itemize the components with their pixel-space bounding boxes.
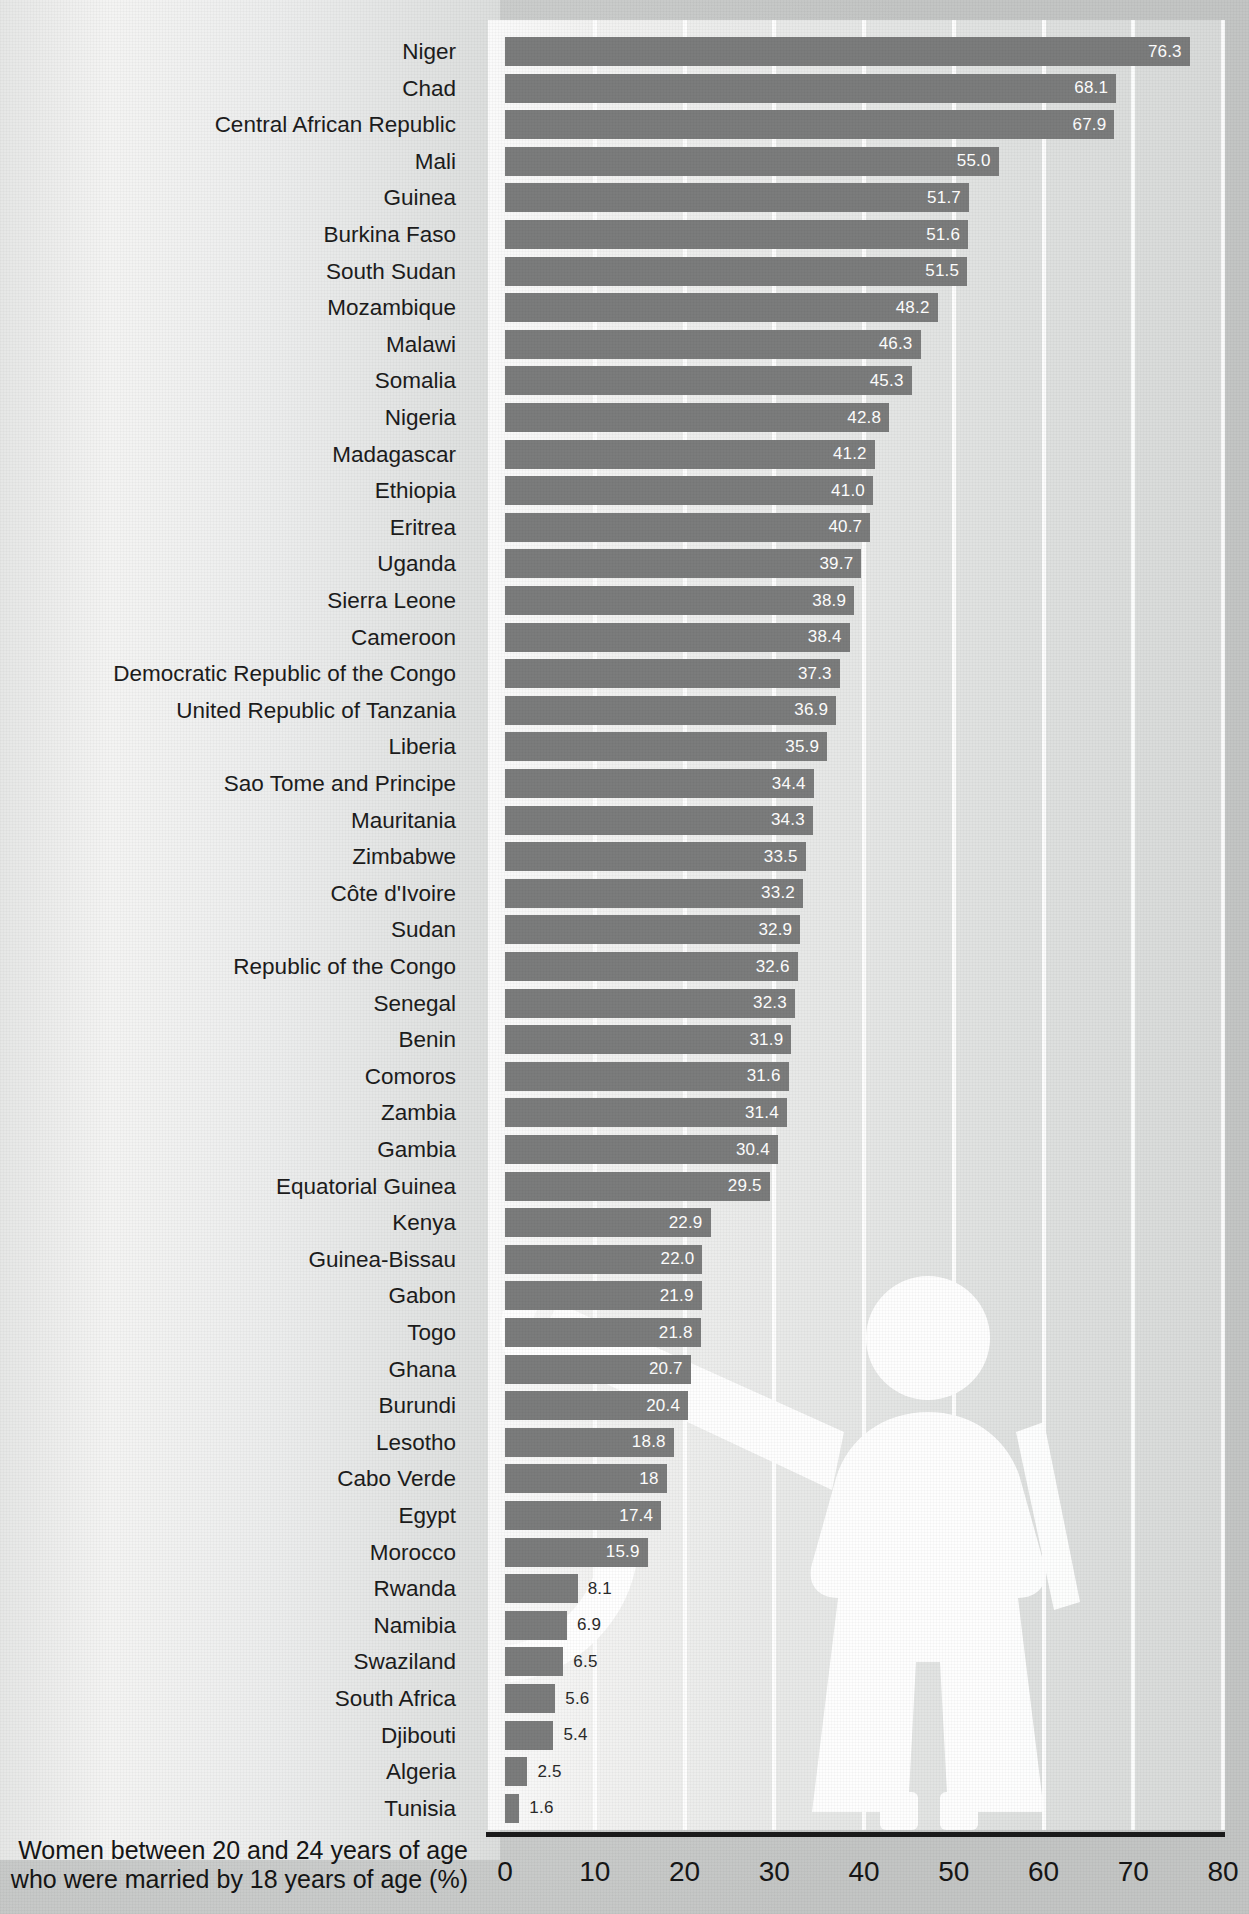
bar-row[interactable]: 20.7 — [488, 1355, 1223, 1384]
bar-row[interactable]: 30.4 — [488, 1135, 1223, 1164]
bar-row[interactable]: 17.4 — [488, 1501, 1223, 1530]
bar-value-label: 30.4 — [736, 1140, 770, 1160]
bar-row[interactable]: 21.9 — [488, 1281, 1223, 1310]
bar-row[interactable]: 5.6 — [488, 1684, 1223, 1713]
bar-row[interactable]: 38.9 — [488, 586, 1223, 615]
bar[interactable] — [505, 659, 840, 688]
bar[interactable] — [505, 366, 912, 395]
bar-row[interactable]: 55.0 — [488, 147, 1223, 176]
bar-row[interactable]: 67.9 — [488, 110, 1223, 139]
bar-row[interactable]: 34.4 — [488, 769, 1223, 798]
bar[interactable] — [505, 74, 1116, 103]
bar-value-label: 31.9 — [749, 1030, 783, 1050]
bar-row[interactable]: 33.5 — [488, 842, 1223, 871]
bar[interactable] — [505, 476, 873, 505]
bar-row[interactable]: 36.9 — [488, 696, 1223, 725]
bar[interactable] — [505, 586, 854, 615]
bar-row[interactable]: 37.3 — [488, 659, 1223, 688]
bar-row[interactable]: 32.3 — [488, 989, 1223, 1018]
bar[interactable] — [505, 549, 861, 578]
bar-value-label: 68.1 — [1074, 78, 1108, 98]
bar[interactable] — [505, 915, 800, 944]
bar-row[interactable]: 20.4 — [488, 1391, 1223, 1420]
bar[interactable] — [505, 1757, 527, 1786]
bar[interactable] — [505, 330, 921, 359]
bar-row[interactable]: 15.9 — [488, 1538, 1223, 1567]
bar-row[interactable]: 8.1 — [488, 1574, 1223, 1603]
bar-row[interactable]: 46.3 — [488, 330, 1223, 359]
bar-row[interactable]: 18 — [488, 1464, 1223, 1493]
bar-row[interactable]: 21.8 — [488, 1318, 1223, 1347]
bar-row[interactable]: 68.1 — [488, 74, 1223, 103]
x-tick-label: 20 — [669, 1856, 700, 1888]
bar[interactable] — [505, 952, 798, 981]
bar-row[interactable]: 41.0 — [488, 476, 1223, 505]
bar-row[interactable]: 5.4 — [488, 1721, 1223, 1750]
bar[interactable] — [505, 1025, 791, 1054]
bar[interactable] — [505, 1794, 519, 1823]
bar-row[interactable]: 32.6 — [488, 952, 1223, 981]
bar-row[interactable]: 40.7 — [488, 513, 1223, 542]
bar[interactable] — [505, 147, 999, 176]
bar[interactable] — [505, 183, 969, 212]
bar[interactable] — [505, 257, 967, 286]
bar[interactable] — [505, 440, 875, 469]
bar[interactable] — [505, 293, 938, 322]
bar-row[interactable]: 32.9 — [488, 915, 1223, 944]
bar-row[interactable]: 29.5 — [488, 1172, 1223, 1201]
bar-value-label: 31.6 — [747, 1066, 781, 1086]
bar[interactable] — [505, 1721, 553, 1750]
bar[interactable] — [505, 1574, 578, 1603]
bar-row[interactable]: 2.5 — [488, 1757, 1223, 1786]
bar[interactable] — [505, 806, 813, 835]
bar-row[interactable]: 41.2 — [488, 440, 1223, 469]
bar[interactable] — [505, 842, 806, 871]
category-label: Lesotho — [376, 1428, 456, 1457]
bar-row[interactable]: 6.9 — [488, 1611, 1223, 1640]
bar-row[interactable]: 22.0 — [488, 1245, 1223, 1274]
bar[interactable] — [505, 37, 1190, 66]
bar-row[interactable]: 38.4 — [488, 623, 1223, 652]
bar-row[interactable]: 45.3 — [488, 366, 1223, 395]
bar-row[interactable]: 51.5 — [488, 257, 1223, 286]
category-label: Burundi — [378, 1391, 456, 1420]
bar[interactable] — [505, 879, 803, 908]
bar-row[interactable]: 51.7 — [488, 183, 1223, 212]
bar-row[interactable]: 42.8 — [488, 403, 1223, 432]
bar[interactable] — [505, 696, 836, 725]
category-label: Swaziland — [353, 1647, 456, 1676]
bar[interactable] — [505, 623, 850, 652]
bar-row[interactable]: 34.3 — [488, 806, 1223, 835]
bar-row[interactable]: 22.9 — [488, 1208, 1223, 1237]
bar-row[interactable]: 18.8 — [488, 1428, 1223, 1457]
bar[interactable] — [505, 1611, 567, 1640]
bar-row[interactable]: 31.4 — [488, 1098, 1223, 1127]
bar[interactable] — [505, 1647, 563, 1676]
bar-row[interactable]: 6.5 — [488, 1647, 1223, 1676]
category-label: Togo — [407, 1318, 456, 1347]
bar-row[interactable]: 51.6 — [488, 220, 1223, 249]
bar-row[interactable]: 76.3 — [488, 37, 1223, 66]
x-tick-label: 10 — [579, 1856, 610, 1888]
bar-row[interactable]: 1.6 — [488, 1794, 1223, 1823]
bar-row[interactable]: 33.2 — [488, 879, 1223, 908]
bar[interactable] — [505, 513, 870, 542]
bar[interactable] — [505, 769, 814, 798]
category-label: Niger — [402, 37, 456, 66]
category-label: Cabo Verde — [337, 1464, 456, 1493]
bar-row[interactable]: 48.2 — [488, 293, 1223, 322]
bar[interactable] — [505, 989, 795, 1018]
bar-row[interactable]: 31.6 — [488, 1062, 1223, 1091]
category-label: Kenya — [392, 1208, 456, 1237]
bar[interactable] — [505, 110, 1114, 139]
bar-row[interactable]: 31.9 — [488, 1025, 1223, 1054]
category-label: Comoros — [365, 1062, 456, 1091]
bar[interactable] — [505, 220, 968, 249]
category-label: Madagascar — [332, 440, 456, 469]
bar-value-label: 15.9 — [606, 1542, 640, 1562]
bar-row[interactable]: 39.7 — [488, 549, 1223, 578]
bar[interactable] — [505, 732, 827, 761]
bar[interactable] — [505, 403, 889, 432]
bar-row[interactable]: 35.9 — [488, 732, 1223, 761]
bar[interactable] — [505, 1684, 555, 1713]
